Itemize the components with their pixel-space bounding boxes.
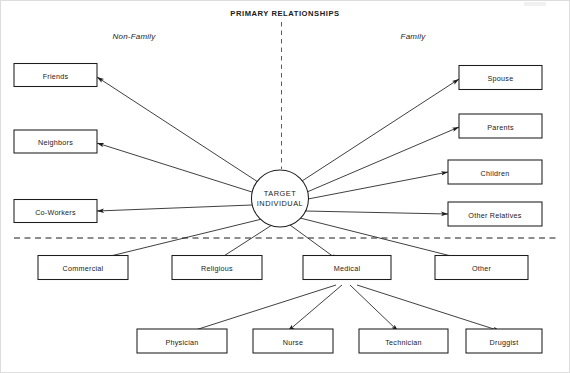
edge-center-to-neighbors bbox=[97, 143, 252, 192]
node-friends[interactable]: Friends bbox=[14, 64, 97, 87]
node-druggist[interactable]: Druggist bbox=[466, 329, 542, 353]
node-medical[interactable]: Medical bbox=[303, 256, 391, 280]
section-label-family: Family bbox=[401, 32, 427, 41]
diagram-page: PRIMARY RELATIONSHIPS Non-Family Family … bbox=[0, 0, 570, 373]
edge-center-to-spouse bbox=[302, 79, 459, 181]
edge-center-to-medical bbox=[290, 225, 338, 260]
node-target-individual[interactable]: TARGET INDIVIDUAL bbox=[252, 170, 309, 227]
edge-center-to-parents bbox=[307, 127, 459, 192]
edge-center-to-other-relatives bbox=[305, 211, 448, 214]
edge-medical-to-druggist bbox=[357, 285, 500, 331]
edge-medical-to-technician bbox=[350, 285, 398, 331]
edge-center-to-other bbox=[300, 218, 471, 261]
edge-center-to-friends bbox=[97, 77, 258, 182]
node-parents[interactable]: Parents bbox=[459, 114, 542, 138]
primary-relationships-diagram: PRIMARY RELATIONSHIPS Non-Family Family … bbox=[0, 0, 570, 373]
edge-center-to-co-workers bbox=[97, 205, 252, 211]
node-other[interactable]: Other bbox=[435, 256, 528, 280]
node-neighbors[interactable]: Neighbors bbox=[14, 130, 97, 153]
scan-artifact bbox=[524, 2, 546, 6]
node-spouse[interactable]: Spouse bbox=[459, 66, 542, 90]
node-nurse[interactable]: Nurse bbox=[253, 329, 333, 353]
node-other-relatives[interactable]: Other Relatives bbox=[448, 202, 542, 226]
diagram-title: PRIMARY RELATIONSHIPS bbox=[230, 9, 339, 18]
node-physician[interactable]: Physician bbox=[137, 329, 227, 353]
node-commercial[interactable]: Commercial bbox=[38, 256, 128, 280]
section-label-non-family: Non-Family bbox=[113, 32, 157, 41]
node-religious[interactable]: Religious bbox=[172, 256, 262, 280]
node-technician[interactable]: Technician bbox=[359, 329, 448, 353]
node-children[interactable]: Children bbox=[448, 160, 542, 184]
edge-center-to-children bbox=[308, 172, 448, 199]
node-co-workers[interactable]: Co-Workers bbox=[14, 200, 97, 223]
